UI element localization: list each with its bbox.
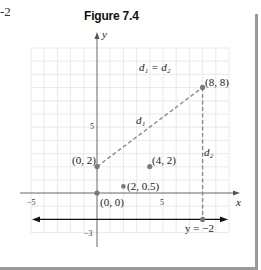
frame-border-right xyxy=(255,14,258,270)
d2-label: d₂ xyxy=(204,146,214,158)
d1-label: d₁ xyxy=(136,114,146,126)
point-label-0-2: (0, 2) xyxy=(72,154,96,167)
tick-y-5: 5 xyxy=(90,122,94,131)
x-axis-arrow-icon xyxy=(233,191,240,196)
point-label-4-2: (4, 2) xyxy=(152,154,176,167)
point-2-0.5 xyxy=(121,184,126,189)
line-label: y = −2 xyxy=(185,222,214,234)
equation-label: d₁ = d₂ xyxy=(139,61,171,73)
point-origin xyxy=(94,190,99,195)
x-axis-label: x xyxy=(235,196,241,208)
right-arrow-icon xyxy=(220,217,228,223)
tick-y-neg3: −3 xyxy=(84,229,93,238)
y-axis-arrow-icon xyxy=(95,32,100,39)
tick-x-5: 5 xyxy=(160,198,164,207)
point-label-8-8: (8, 8) xyxy=(205,76,229,89)
tick-x-neg5: −5 xyxy=(27,198,36,207)
grid xyxy=(31,48,229,233)
coordinate-plane: y x −5 5 5 −3 d₁ = d₂ d₁ d₂ (8, 8) (0, 2… xyxy=(0,0,261,270)
point-label-origin: (0, 0) xyxy=(100,196,124,209)
left-arrow-icon xyxy=(32,217,40,223)
y-axis-label: y xyxy=(101,28,107,40)
point-label-2-0.5: (2, 0.5) xyxy=(127,180,159,193)
